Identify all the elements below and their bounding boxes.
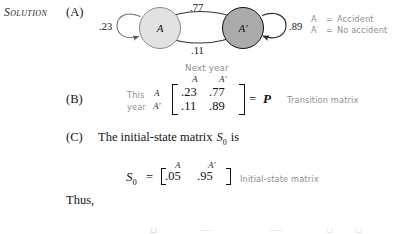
- legend-equals-a: =: [326, 14, 333, 24]
- initial-matrix-cell-1: .95: [197, 169, 213, 184]
- legend-equals-aprime: =: [326, 25, 333, 35]
- legend-symbol-a: A: [311, 14, 322, 24]
- clipped-equation-glyphs: ⌂ ⌂ ― ― ⌂ ⌂: [150, 228, 380, 232]
- initial-state-matrix-annotation: Initial-state matrix: [240, 174, 319, 184]
- self-loop-aprime: [262, 13, 286, 37]
- transition-label-a-a: .23: [99, 21, 112, 32]
- initial-state-sentence-after: is: [231, 130, 239, 145]
- matrix-equals-sign: =: [249, 92, 256, 107]
- part-c-marker: (C): [66, 130, 83, 145]
- legend-meaning-aprime: No accident: [337, 25, 387, 35]
- initial-state-sentence-before: The initial-state matrix: [98, 130, 213, 145]
- state-node-aprime: A′: [222, 7, 264, 49]
- initial-state-sentence: The initial-state matrix S0 is: [98, 130, 239, 147]
- legend-symbol-aprime: A′: [311, 25, 322, 35]
- initial-state-matrix-symbol: S0: [126, 169, 137, 187]
- initial-state-sentence-symbol: S0: [217, 130, 227, 147]
- matrix-cell-r1c0: .11: [181, 99, 196, 114]
- matrix-cell-r1c1: .89: [209, 99, 225, 114]
- textbook-solution-page: Solution (A) A: [0, 0, 405, 234]
- matrix-bracket-left: [172, 84, 178, 115]
- transition-label-aprime-aprime: .89: [289, 21, 302, 32]
- initial-matrix-cell-0: .05: [165, 169, 181, 184]
- transition-matrix-annotation: Transition matrix: [287, 95, 358, 105]
- matrix-cell-r0c1: .77: [209, 85, 225, 100]
- part-b-marker: (B): [66, 92, 83, 107]
- this-year-label-line1: This: [127, 90, 144, 100]
- thus-text: Thus,: [66, 193, 94, 208]
- transition-label-aprime-a: .11: [191, 45, 204, 56]
- this-year-label-line2: year: [127, 102, 146, 112]
- legend-row-aprime: A′ = No accident: [311, 25, 387, 36]
- matrix-column-label-aprime: A′: [219, 74, 226, 84]
- initial-state-equals-sign: =: [146, 170, 153, 185]
- legend-row-a: A = Accident: [311, 14, 387, 25]
- self-loop-a: [117, 14, 141, 38]
- state-node-aprime-label: A′: [238, 22, 247, 34]
- legend-meaning-a: Accident: [337, 14, 374, 24]
- state-node-a: A: [139, 7, 181, 49]
- matrix-bracket-right: [239, 84, 245, 115]
- matrix-column-label-a: A: [192, 74, 198, 84]
- initial-matrix-bracket-right: [226, 168, 231, 185]
- transition-matrix-symbol: P: [263, 91, 271, 107]
- matrix-cell-r0c0: .23: [181, 85, 197, 100]
- next-year-header: Next year: [185, 63, 229, 73]
- clipped-bottom-equation-row: ⌂ ⌂ ― ― ⌂ ⌂: [0, 228, 405, 234]
- matrix-row-label-a: A: [154, 88, 160, 98]
- state-node-a-label: A: [157, 22, 164, 34]
- matrix-row-label-aprime: A′: [153, 101, 160, 111]
- diagram-legend: A = Accident A′ = No accident: [311, 14, 387, 36]
- transition-label-a-aprime: .77: [190, 2, 203, 13]
